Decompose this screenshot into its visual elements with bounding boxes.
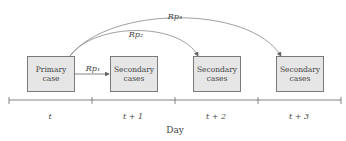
axis-title: Day	[166, 125, 184, 135]
node-label: Secondary	[114, 65, 154, 74]
edge-rp3-arrow	[70, 18, 281, 56]
tick-label-t2: t + 2	[206, 112, 226, 121]
node-label: Secondary	[197, 65, 237, 74]
node-sublabel: cases	[290, 74, 311, 83]
primary-case-node: Primary case	[27, 56, 75, 92]
secondary-cases-node-2: Secondary cases	[193, 56, 241, 92]
tick-label-t: t	[48, 112, 51, 121]
tick-label-t1: t + 1	[123, 112, 143, 121]
node-sublabel: case	[43, 74, 60, 83]
secondary-cases-node-3: Secondary cases	[276, 56, 324, 92]
edge-label-rp3: Rp₃	[168, 12, 182, 21]
node-label: Secondary	[280, 65, 320, 74]
node-label: Primary	[36, 65, 66, 74]
secondary-cases-node-1: Secondary cases	[110, 56, 158, 92]
edge-label-rp1: Rp₁	[86, 64, 100, 73]
node-sublabel: cases	[124, 74, 145, 83]
edge-label-rp2: Rp₂	[129, 30, 143, 39]
node-sublabel: cases	[207, 74, 228, 83]
tick-label-t3: t + 3	[289, 112, 309, 121]
